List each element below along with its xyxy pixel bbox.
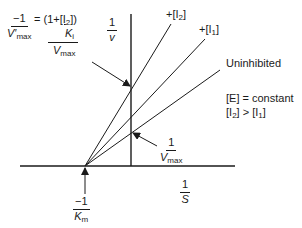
vmax-prime-divider [48,42,78,43]
line-i2 [85,24,171,166]
label-i2: +[I2] [166,9,186,22]
vmax-annotation: 1 Vmax [160,137,182,165]
km-annotation: −1 Km [73,196,90,224]
x-axis-label: 1 S [180,179,190,205]
line-i1 [85,39,205,166]
line-uninhibited [85,70,220,166]
vmax-prime-ki: Ki [65,28,74,41]
y-axis-label: 1 v [107,17,117,43]
vmax-prime-lhs: −1 V′max [7,13,32,41]
arrow-vmax-prime [92,62,130,86]
vmax-prime-vmax: Vmax [53,45,75,58]
label-uninhibited: Uninhibited [226,58,281,69]
label-i1: +[I1] [199,24,219,37]
arrow-vmax [133,133,157,146]
condition-e-constant: [E] = constant [226,93,294,104]
condition-i2-gt-i1: [I2] > [I1] [226,107,266,120]
vmax-prime-eq: = (1+[I2]) [34,14,77,27]
